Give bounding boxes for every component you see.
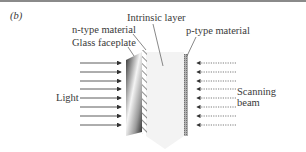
p-type-layer (184, 54, 188, 136)
light-arrows (80, 63, 121, 125)
scanning-beam-arrows (197, 63, 236, 125)
glass-faceplate (126, 52, 142, 136)
photoconductor-diagram (0, 0, 306, 152)
n-type-layer (142, 50, 147, 134)
intrinsic-layer (146, 52, 184, 149)
